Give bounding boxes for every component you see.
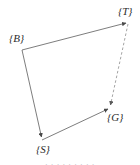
vertex-label-B: {B} <box>9 32 24 44</box>
figure-canvas: · · · · · · · · · · · · {B} {T} {G} {S} … <box>0 0 140 165</box>
edge-T-to-G <box>111 24 129 105</box>
vertex-label-G: {G} <box>107 111 123 123</box>
vertex-label-S: {S} <box>36 143 50 155</box>
edge-S-to-G <box>42 109 108 140</box>
vertex-label-T: {T} <box>118 5 132 17</box>
edge-B-to-T <box>22 23 126 50</box>
edge-B-to-S <box>22 50 42 137</box>
quadrilateral-diagram <box>0 0 140 165</box>
